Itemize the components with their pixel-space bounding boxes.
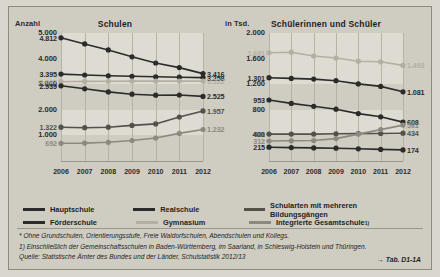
data-point-marker (266, 138, 271, 143)
data-point-marker (400, 123, 405, 128)
chart-panel-schueler: in Tsd. Schülerinnen und Schüler 4008001… (221, 7, 431, 179)
data-value-label: 1.691 (248, 48, 266, 57)
data-point-marker (333, 78, 338, 83)
x-axis-tick-label: 2008 (97, 168, 119, 175)
data-point-marker (378, 147, 383, 152)
note-line-1: * Ohne Grundschulen, Orientierungsstufe,… (19, 231, 423, 242)
data-point-marker (106, 140, 111, 145)
data-point-marker (129, 138, 134, 143)
data-point-marker (177, 65, 182, 70)
data-point-marker (106, 89, 111, 94)
chart-legend: Hauptschule Realschule Schularten mit me… (23, 203, 423, 229)
data-point-marker (177, 114, 182, 119)
axis-baseline (269, 161, 403, 162)
x-axis-tick-label: 2009 (325, 168, 347, 175)
right-chart-plot-area: 4008001.2001.6002.0002006200720082009201… (269, 33, 403, 161)
data-value-label: 215 (253, 143, 265, 152)
gridline-vertical (403, 33, 404, 161)
data-point-marker (356, 81, 361, 86)
data-point-marker (311, 138, 316, 143)
data-value-label: 561 (407, 121, 419, 130)
data-value-label: 1.322 (40, 123, 58, 132)
x-axis-tick-label: 2011 (370, 168, 392, 175)
data-point-marker (106, 125, 111, 130)
chart-panel-schulen: Anzahl Schulen 1.0002.0003.0004.0005.000… (9, 7, 221, 179)
data-point-marker (356, 59, 361, 64)
data-point-marker (106, 73, 111, 78)
axis-baseline (61, 161, 203, 162)
data-value-label: 1.081 (407, 87, 425, 96)
legend-swatch-line-icon (23, 208, 45, 211)
x-axis-tick-label: 2012 (192, 168, 214, 175)
legend-item-hauptschule: Hauptschule (23, 205, 123, 214)
data-point-marker (177, 79, 182, 84)
data-point-marker (333, 107, 338, 112)
data-point-marker (289, 145, 294, 150)
data-point-marker (177, 131, 182, 136)
data-point-marker (200, 108, 205, 113)
legend-item-gymnasium: Gymnasium (136, 218, 239, 227)
legend-label: Schularten mit mehreren Bildungsgängen (270, 201, 413, 219)
data-point-marker (177, 92, 182, 97)
charts-area: Anzahl Schulen 1.0002.0003.0004.0005.000… (9, 7, 431, 179)
data-point-marker (58, 141, 63, 146)
series-lines (269, 33, 403, 161)
data-point-marker (356, 132, 361, 137)
note-source-line: Quelle: Statistische Ämter des Bundes un… (19, 252, 423, 263)
data-point-marker (58, 35, 63, 40)
data-point-marker (311, 104, 316, 109)
data-point-marker (153, 135, 158, 140)
data-point-marker (400, 63, 405, 68)
x-axis-tick-label: 2007 (74, 168, 96, 175)
data-point-marker (311, 132, 316, 137)
legend-swatch-line-icon (23, 221, 45, 224)
legend-swatch-line-icon (244, 208, 265, 211)
data-point-marker (356, 146, 361, 151)
figure-container: Anzahl Schulen 1.0002.0003.0004.0005.000… (8, 6, 432, 270)
data-point-marker (378, 84, 383, 89)
legend-footnote-marker: 1) (365, 220, 369, 226)
data-value-label: 434 (407, 129, 419, 138)
x-axis-tick-label: 2012 (392, 168, 414, 175)
data-point-marker (289, 138, 294, 143)
data-point-marker (289, 132, 294, 137)
data-point-marker (333, 131, 338, 136)
data-point-marker (82, 79, 87, 84)
y-axis-tick-label: 4.000 (38, 54, 57, 63)
data-point-marker (129, 79, 134, 84)
data-point-marker (311, 77, 316, 82)
data-value-label: 1.493 (407, 61, 425, 70)
legend-label: Hauptschule (50, 205, 94, 214)
data-value-label: 1.301 (248, 73, 266, 82)
legend-label: Realschule (160, 205, 199, 214)
legend-swatch-line-icon (249, 221, 271, 224)
data-value-label: 953 (253, 96, 265, 105)
data-point-marker (400, 89, 405, 94)
data-point-marker (58, 125, 63, 130)
data-point-marker (82, 125, 87, 130)
legend-swatch-line-icon (133, 208, 155, 211)
legend-label: Gymnasium (163, 218, 205, 227)
note-line-2: 1) Einschließlich der Gemeinschaftsschul… (19, 242, 423, 253)
data-point-marker (266, 50, 271, 55)
data-point-marker (266, 145, 271, 150)
data-point-marker (266, 97, 271, 102)
data-point-marker (58, 72, 63, 77)
data-point-marker (356, 111, 361, 116)
data-point-marker (333, 136, 338, 141)
data-point-marker (266, 132, 271, 137)
data-point-marker (378, 59, 383, 64)
data-point-marker (129, 54, 134, 59)
data-point-marker (333, 146, 338, 151)
x-axis-tick-label: 2011 (168, 168, 190, 175)
data-point-marker (82, 86, 87, 91)
table-reference-link[interactable]: → Tab. D1-1A (377, 256, 421, 263)
legend-label: Integrierte Gesamtschule (276, 218, 365, 227)
x-axis-tick-label: 2009 (121, 168, 143, 175)
data-point-marker (106, 47, 111, 52)
y-axis-tick-label: 800 (252, 105, 265, 114)
data-point-marker (129, 123, 134, 128)
data-value-label: 174 (407, 145, 419, 154)
data-point-marker (333, 55, 338, 60)
data-point-marker (378, 114, 383, 119)
